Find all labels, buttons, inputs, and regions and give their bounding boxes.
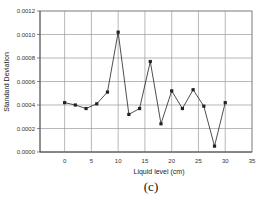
data-point-marker	[95, 102, 98, 105]
x-tick-label: 20	[168, 158, 175, 164]
data-point-marker	[117, 31, 120, 34]
x-tick-label: 25	[195, 158, 202, 164]
x-tick-label: 30	[222, 158, 229, 164]
y-tick-label: 0.0000	[17, 149, 36, 155]
data-point-marker	[84, 107, 87, 110]
x-tick-label: 15	[142, 158, 149, 164]
y-tick-label: 0.0004	[17, 102, 36, 108]
y-tick-label: 0.0012	[17, 8, 36, 14]
data-point-marker	[202, 105, 205, 108]
data-point-marker	[170, 89, 173, 92]
data-point-marker	[63, 101, 66, 104]
data-point-marker	[159, 122, 162, 125]
data-point-marker	[149, 60, 152, 63]
data-point-marker	[224, 101, 227, 104]
data-point-marker	[181, 107, 184, 110]
y-tick-label: 0.0006	[17, 79, 36, 85]
y-axis-ticks: 0.00000.00020.00040.00060.00080.00100.00…	[17, 8, 40, 155]
figure-caption: (c)	[144, 179, 158, 194]
data-point-marker	[192, 88, 195, 91]
data-point-marker	[74, 103, 77, 106]
x-tick-label: 5	[90, 158, 94, 164]
line-chart: 0.00000.00020.00040.00060.00080.00100.00…	[0, 0, 260, 202]
x-tick-label: 0	[63, 158, 67, 164]
y-tick-label: 0.0008	[17, 55, 36, 61]
y-tick-label: 0.0010	[17, 32, 36, 38]
data-point-marker	[106, 90, 109, 93]
y-tick-label: 0.0002	[17, 126, 36, 132]
x-axis-ticks: 05101520253035	[63, 158, 256, 164]
x-tick-label: 35	[249, 158, 256, 164]
data-point-marker	[127, 113, 130, 116]
y-axis-label: Standard Deviation	[3, 52, 10, 112]
x-tick-label: 10	[115, 158, 122, 164]
data-point-marker	[213, 145, 216, 148]
x-axis-label: Liquid level (cm)	[134, 168, 185, 176]
data-point-marker	[138, 107, 141, 110]
